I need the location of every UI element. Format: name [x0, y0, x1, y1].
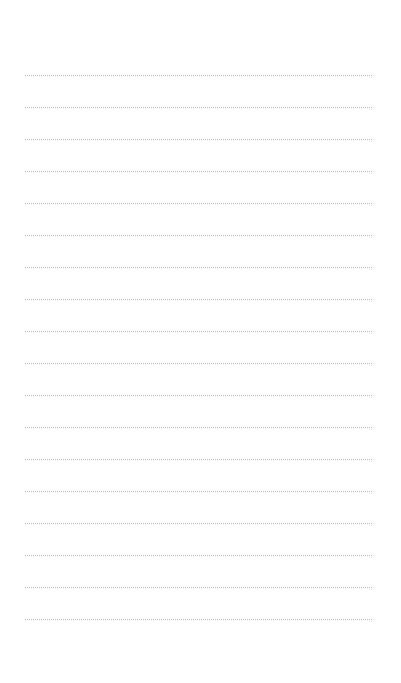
ruled-line	[25, 107, 372, 108]
notepad-page	[0, 0, 401, 683]
ruled-line	[25, 299, 372, 300]
ruled-line	[25, 491, 372, 492]
ruled-line	[25, 171, 372, 172]
ruled-line	[25, 203, 372, 204]
ruled-line	[25, 619, 372, 620]
ruled-line	[25, 235, 372, 236]
ruled-line	[25, 139, 372, 140]
ruled-line	[25, 523, 372, 524]
ruled-line	[25, 587, 372, 588]
ruled-line	[25, 363, 372, 364]
ruled-line	[25, 331, 372, 332]
ruled-line	[25, 555, 372, 556]
ruled-line	[25, 427, 372, 428]
ruled-line	[25, 267, 372, 268]
ruled-line	[25, 395, 372, 396]
ruled-line	[25, 459, 372, 460]
ruled-line	[25, 75, 372, 76]
